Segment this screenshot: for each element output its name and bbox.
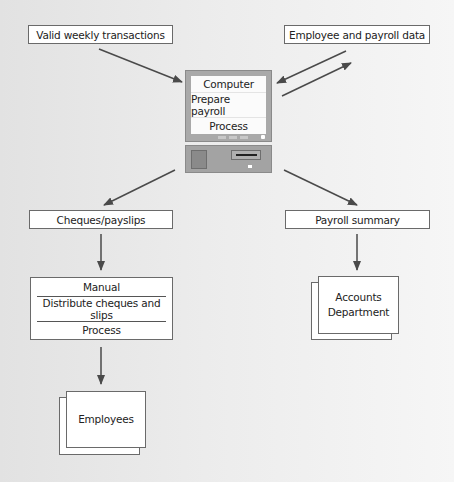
monitor-led-icon (229, 136, 237, 139)
monitor-power-icon (261, 135, 265, 139)
monitor-led-icon (218, 136, 226, 139)
employee-payroll-data-label: Employee and payroll data (289, 29, 425, 41)
valid-weekly-transactions-label: Valid weekly transactions (36, 29, 164, 41)
document-front: Accounts Department (318, 276, 399, 334)
manual-task: Distribute cheques and slips (31, 297, 172, 321)
document-front: Employees (66, 391, 146, 448)
valid-weekly-transactions-box: Valid weekly transactions (28, 25, 173, 44)
accounts-label-line1: Accounts (328, 290, 390, 305)
monitor-led-icon (240, 136, 248, 139)
computer-screen: Computer Prepare payroll Process (191, 76, 266, 134)
computer-task: Prepare payroll (191, 93, 266, 118)
manual-title: Manual (31, 278, 172, 296)
manual-process-box: Manual Distribute cheques and slips Proc… (30, 277, 173, 340)
computer-process-label: Process (191, 118, 266, 134)
payroll-summary-box: Payroll summary (285, 210, 430, 229)
accounts-label-line2: Department (328, 305, 390, 320)
disk-drive-icon (231, 150, 261, 160)
cpu-power-icon (248, 165, 252, 168)
computer-monitor-icon: Computer Prepare payroll Process (185, 70, 272, 142)
manual-process-label: Process (31, 322, 172, 340)
payroll-summary-label: Payroll summary (315, 214, 400, 226)
employees-label: Employees (78, 412, 134, 427)
cheques-payslips-label: Cheques/payslips (57, 214, 146, 226)
cheques-payslips-box: Cheques/payslips (29, 210, 173, 229)
computer-title: Computer (191, 76, 266, 93)
employee-payroll-data-box: Employee and payroll data (284, 25, 430, 44)
cpu-panel-icon (191, 150, 207, 169)
computer-case-icon (185, 145, 272, 173)
